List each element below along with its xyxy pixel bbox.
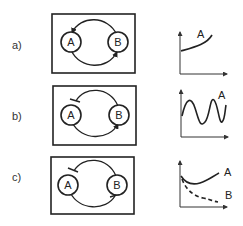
node-b-label: B bbox=[113, 179, 120, 191]
curve-label-b: B bbox=[225, 189, 232, 201]
node-a-label: A bbox=[67, 109, 75, 121]
row-label-a: a) bbox=[12, 39, 22, 51]
edge-b-to-a-activation bbox=[72, 20, 117, 35]
inhibition-bar-icon bbox=[70, 99, 80, 102]
node-b-label: B bbox=[114, 36, 121, 48]
plot-c: A B bbox=[180, 161, 232, 207]
plot-b: A bbox=[181, 89, 228, 137]
feedback-motifs-diagram: a) A B A b) A bbox=[0, 0, 243, 226]
node-b-label: B bbox=[115, 109, 122, 121]
edge-a-to-b-activation bbox=[72, 122, 118, 137]
network-box-c: A B bbox=[51, 157, 134, 214]
curve-label-a: A bbox=[218, 89, 226, 101]
inhibition-bar-icon bbox=[68, 168, 78, 172]
network-box-b: A B bbox=[53, 86, 136, 145]
edge-a-to-b-inhibition bbox=[70, 192, 115, 207]
edge-b-to-a-inhibition bbox=[74, 160, 116, 176]
edge-a-to-b-activation bbox=[71, 50, 117, 65]
curve-label-a: A bbox=[224, 166, 232, 178]
curve-a-solid bbox=[181, 173, 219, 184]
network-box-a: A B bbox=[52, 14, 135, 73]
curve-a-oscillation bbox=[182, 99, 226, 124]
row-b: b) A B A bbox=[12, 86, 228, 145]
node-a-label: A bbox=[67, 36, 75, 48]
row-c: c) A B A B bbox=[12, 157, 232, 214]
row-a: a) A B A bbox=[12, 14, 227, 74]
plot-a: A bbox=[180, 28, 227, 74]
node-a-label: A bbox=[64, 179, 72, 191]
row-label-b: b) bbox=[12, 110, 22, 122]
row-label-c: c) bbox=[12, 171, 21, 183]
curve-label-a: A bbox=[197, 28, 205, 40]
edge-b-to-a-inhibition bbox=[76, 90, 118, 106]
